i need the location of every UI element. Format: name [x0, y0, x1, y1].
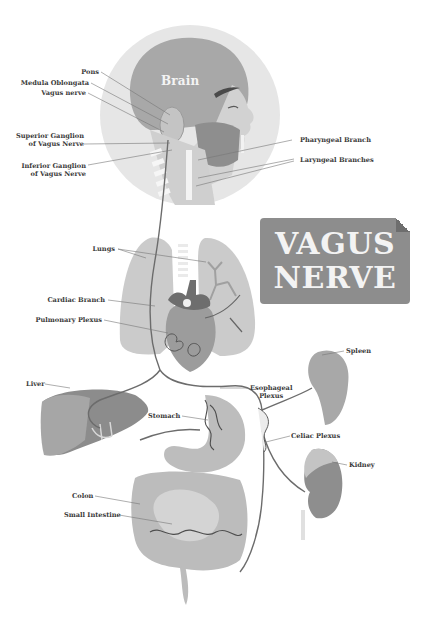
- label-lungs: Lungs: [92, 245, 115, 253]
- spleen: [308, 350, 348, 425]
- label-superior-ganglion-line1: Superior Ganglion: [16, 132, 84, 140]
- label-celiac-plexus: Celiac Plexus: [291, 432, 340, 440]
- label-inferior-ganglion: Inferior Ganglion of Vagus Nerve: [21, 162, 86, 178]
- trachea-rings: [178, 244, 188, 277]
- title-line-2: NERVE: [260, 262, 410, 294]
- label-stomach: Stomach: [148, 412, 180, 420]
- label-superior-ganglion: Superior Ganglion of Vagus Nerve: [16, 132, 84, 148]
- ureter: [301, 510, 305, 540]
- rectum: [180, 565, 188, 605]
- head-section: [100, 25, 280, 205]
- label-small-intestine: Small Intestine: [64, 511, 121, 519]
- label-inferior-ganglion-line1: Inferior Ganglion: [21, 162, 86, 170]
- aortic-opening: [183, 299, 191, 307]
- trachea: [186, 150, 192, 200]
- label-spleen: Spleen: [346, 347, 371, 355]
- brain-label: Brain: [161, 74, 200, 88]
- label-medulla-oblongata: Medula Oblongata: [21, 79, 89, 87]
- label-pulmonary-plexus: Pulmonary Plexus: [36, 316, 102, 324]
- label-vagus-nerve: Vagus nerve: [41, 89, 86, 97]
- stomach: [164, 395, 245, 473]
- label-pons: Pons: [81, 68, 99, 76]
- label-inferior-ganglion-line2: of Vagus Nerve: [21, 170, 86, 178]
- label-esophageal-plexus-line1: Esophageal: [250, 384, 292, 392]
- label-liver: Liver: [26, 380, 45, 388]
- label-esophageal-plexus-line2: Plexus: [250, 392, 292, 400]
- label-esophageal-plexus: Esophageal Plexus: [250, 384, 292, 400]
- label-cardiac-branch: Cardiac Branch: [47, 296, 105, 304]
- title-banner: VAGUS NERVE: [260, 218, 410, 304]
- lungs-section: [120, 238, 255, 373]
- label-colon: Colon: [72, 492, 93, 500]
- label-kidney: Kidney: [349, 461, 375, 469]
- title-line-1: VAGUS: [260, 228, 410, 260]
- heart: [166, 302, 216, 372]
- label-pharyngeal-branch: Pharyngeal Branch: [300, 136, 371, 144]
- vagus-nerve-diagram: Brain Pons Medula Oblongata Vagus nerve …: [0, 0, 439, 622]
- label-superior-ganglion-line2: of Vagus Nerve: [16, 140, 84, 148]
- label-laryngeal-branches: Laryngeal Branches: [300, 156, 374, 164]
